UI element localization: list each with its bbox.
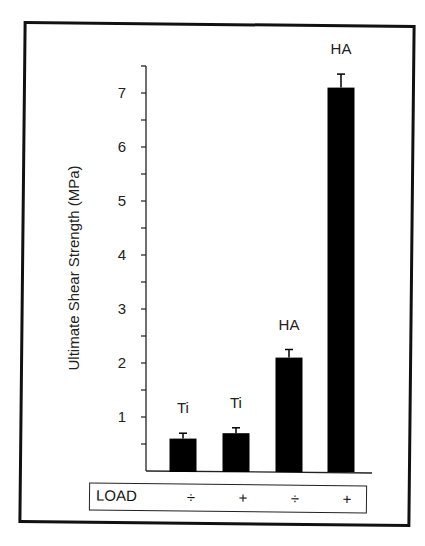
y-tick-label: 5 [118,192,126,209]
bar [276,358,303,472]
bar [328,88,355,472]
y-axis-label: Ultimate Shear Strength (MPa) [65,165,82,370]
load-sign-1: ÷ [181,489,201,506]
bar-label: Ti [230,394,242,411]
y-tick-label: 2 [118,354,126,371]
y-tick-label: 6 [118,138,126,155]
bar-label: HA [279,316,300,333]
y-tick-label: 3 [118,300,126,317]
load-label: LOAD [96,487,137,504]
bar [223,433,250,472]
y-tick-label: 7 [118,84,126,101]
load-sign-3: ÷ [285,490,305,507]
load-row: LOAD ÷ + ÷ + [89,483,367,514]
bar-label: HA [331,40,352,57]
y-tick-label: 4 [118,246,126,263]
bar [170,439,197,472]
bars: TiTiHAHA [170,40,355,472]
load-sign-4: + [337,490,357,507]
bar-label: Ti [177,399,189,416]
y-tick-label: 1 [118,408,126,425]
bar-chart: 1234567 TiTiHAHA Ultimate Shear Strength… [0,0,425,546]
load-sign-2: + [233,489,253,506]
